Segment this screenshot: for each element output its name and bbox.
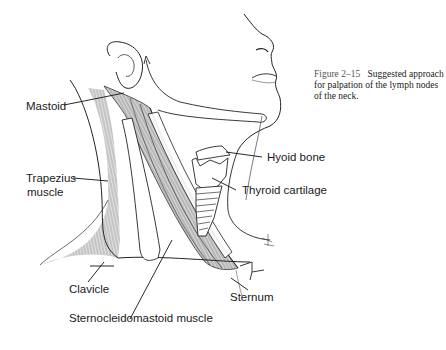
label-sternum: Sternum [230, 291, 273, 304]
leader-clavicle [88, 262, 104, 282]
leader-hyoid [226, 152, 262, 157]
figure-number: Figure 2–15 [314, 69, 360, 79]
larynx [192, 158, 228, 236]
leader-trapezius [73, 178, 108, 181]
label-hyoid-bone: Hyoid bone [267, 151, 325, 164]
figure: Figure 2–15 Suggested approach for palpa… [0, 0, 446, 350]
artist-signature [262, 234, 274, 246]
ear [107, 42, 142, 89]
figure-caption: Figure 2–15 Suggested approach for palpa… [314, 69, 446, 102]
label-trapezius: Trapezius [26, 172, 76, 185]
jaw-arrow [146, 60, 266, 122]
label-thyroid-cartilage: Thyroid cartilage [242, 184, 327, 197]
label-trapezius-muscle: muscle [27, 186, 63, 199]
label-clavicle: Clavicle [69, 283, 109, 296]
hyoid-bone [196, 146, 230, 160]
label-mastoid: Mastoid [26, 100, 66, 113]
sternum-shape [240, 262, 264, 280]
label-sternocleidomastoid: Sternocleidomastoid muscle [69, 312, 213, 325]
leader-sternum [231, 278, 248, 290]
